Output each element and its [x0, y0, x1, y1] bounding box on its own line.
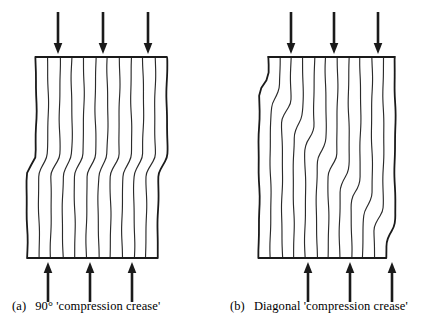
- panel-a-stripe: [110, 57, 120, 258]
- panel-a-stripe: [134, 57, 144, 258]
- panel-b-compression-arrow-up-head: [346, 262, 355, 273]
- caption-row: (a) 90° 'compression crease' (b) Diagona…: [0, 299, 435, 325]
- panel-b-stripe: [293, 57, 303, 258]
- panel-b-stripe: [270, 57, 280, 258]
- caption-tag-b: (b): [230, 299, 245, 314]
- panel-b-compression-arrow-down-head: [330, 43, 339, 54]
- compression-crease-figure: (a) 90° 'compression crease' (b) Diagona…: [0, 0, 435, 331]
- panel-b-stripe: [305, 57, 315, 258]
- panel-a-compression-arrow-up-head: [86, 262, 95, 273]
- panel-b-stripe: [351, 57, 361, 258]
- panel-b-compression-arrow-down-head: [287, 43, 296, 54]
- panel-b-stripe: [328, 57, 338, 258]
- panel-b-stripe: [374, 57, 384, 258]
- caption-text-b: Diagonal 'compression crease': [254, 299, 408, 314]
- panel-b-compression-arrow-down-head: [374, 43, 383, 54]
- panel-a-stripe: [122, 57, 132, 258]
- caption-tag-a: (a): [12, 299, 26, 314]
- panel-a-stripe: [50, 57, 60, 258]
- panel-a-diagram: [27, 12, 168, 302]
- panel-a-stripe: [62, 57, 72, 258]
- panel-a-stripe: [146, 57, 156, 258]
- panel-a-compression-arrow-down-head: [99, 43, 108, 54]
- panel-b-stripe: [339, 57, 349, 258]
- panel-b-compression-arrow-up-head: [304, 262, 313, 273]
- caption-panel-b: (b) Diagonal 'compression crease': [230, 299, 408, 314]
- panel-b-stripe: [316, 57, 326, 258]
- figure-drawing-canvas: [0, 0, 435, 331]
- panel-a-compression-arrow-up-head: [44, 262, 53, 273]
- panel-b-diagram: [258, 12, 396, 302]
- panel-a-stripe: [74, 57, 84, 258]
- panel-b-compression-arrow-up-head: [388, 262, 397, 273]
- panel-b-stripe: [362, 57, 372, 258]
- panel-a-stripe: [38, 57, 48, 258]
- panel-a-compression-arrow-down-head: [54, 43, 63, 54]
- panel-a-stripe: [86, 57, 96, 258]
- panel-a-compression-arrow-down-head: [144, 43, 153, 54]
- panel-a-stripe: [98, 57, 108, 258]
- caption-panel-a: (a) 90° 'compression crease': [12, 299, 222, 314]
- panel-b-stripe: [281, 57, 291, 258]
- panel-a-compression-arrow-up-head: [128, 262, 137, 273]
- caption-text-a: 90° 'compression crease': [35, 299, 160, 314]
